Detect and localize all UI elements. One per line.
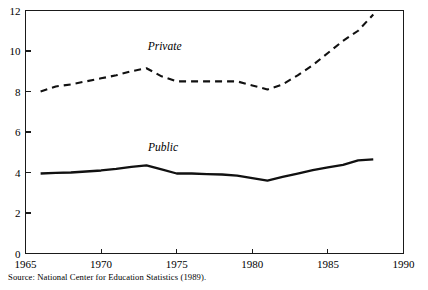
y-tick-label: 4 (15, 167, 21, 179)
y-tick-label: 12 (10, 5, 21, 17)
axis-frame (26, 11, 404, 254)
series-label-private: Private (147, 40, 182, 52)
y-tick-label: 10 (10, 45, 22, 57)
plot-frame (26, 11, 404, 254)
x-tick-label: 1980 (241, 258, 264, 270)
y-axis-ticks (26, 11, 31, 254)
series-label-public: Public (147, 141, 178, 153)
x-tick-label: 1965 (15, 258, 38, 270)
x-axis-ticks (101, 249, 328, 254)
x-tick-label: 1970 (90, 258, 113, 270)
y-axis-tick-labels: 024681012 (10, 5, 22, 260)
series-line-public (41, 159, 374, 180)
x-axis-tick-labels: 196519701975198019851990 (15, 258, 416, 270)
chart-figure: 024681012 196519701975198019851990 Priva… (0, 0, 428, 290)
source-note: Source: National Center for Education St… (8, 272, 206, 282)
y-tick-label: 8 (15, 86, 21, 98)
line-chart: 024681012 196519701975198019851990 Priva… (0, 0, 428, 290)
x-tick-label: 1990 (393, 258, 416, 270)
x-tick-label: 1985 (317, 258, 340, 270)
y-tick-label: 6 (15, 126, 21, 138)
x-tick-label: 1975 (166, 258, 189, 270)
y-tick-label: 2 (15, 207, 21, 219)
series-line-private (41, 15, 374, 92)
